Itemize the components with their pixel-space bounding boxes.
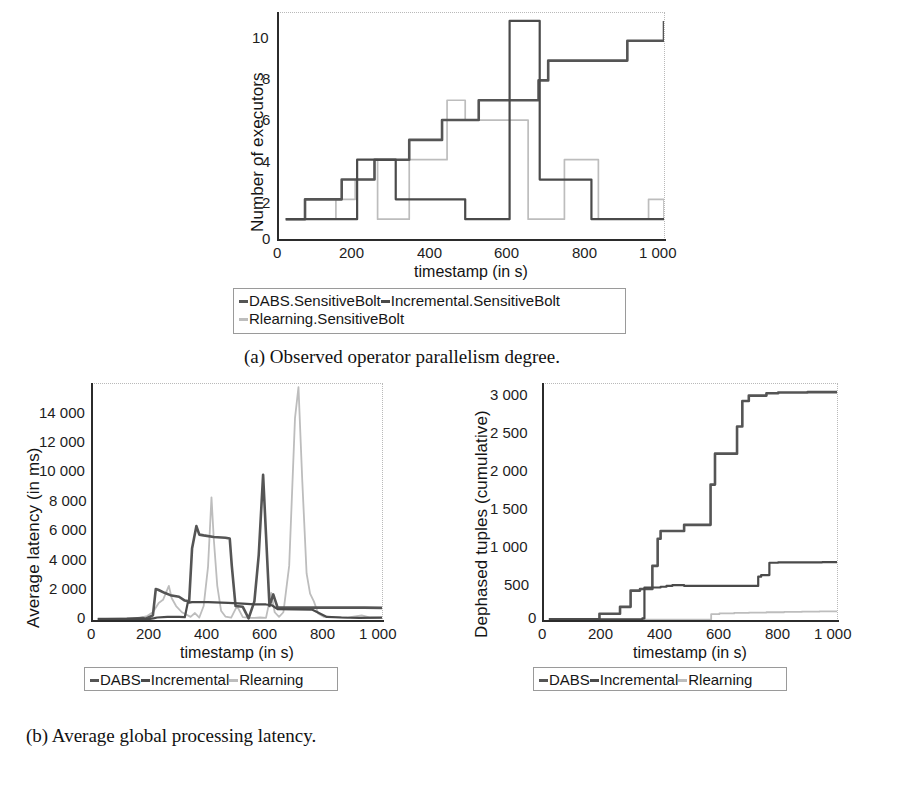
panel-a-legend-item-dabs[interactable]: DABS.SensitiveBolt xyxy=(239,292,381,310)
panel-b-legend-label-incremental: Incremental xyxy=(151,671,229,689)
panel-c-ytick-500: 500 xyxy=(504,577,529,592)
panel-b-x-axis xyxy=(91,620,384,622)
legend-swatch-icon xyxy=(239,318,248,321)
legend-swatch-icon xyxy=(590,679,599,682)
panel-c-y-axis xyxy=(542,383,544,622)
panel-b-legend-item-incremental[interactable]: Incremental xyxy=(141,671,229,689)
legend-swatch-icon xyxy=(239,300,248,303)
panel-b-legend-label-rlearning: Rlearning xyxy=(239,671,303,689)
panel-b-xtick-800: 800 xyxy=(310,626,335,641)
panel-a-ytick-8: 8 xyxy=(262,71,270,86)
panel-a-xtick-400: 400 xyxy=(417,245,442,260)
panel-b-plot-svg xyxy=(92,384,382,620)
legend-swatch-icon xyxy=(539,679,548,682)
panel-a-legend-item-rlearning[interactable]: Rlearning.SensitiveBolt xyxy=(239,310,404,328)
panel-c-ytick-1000: 1 000 xyxy=(490,539,528,554)
panel-a-plot-area xyxy=(277,12,665,240)
legend-swatch-icon xyxy=(229,679,238,682)
panel-c-legend-label-incremental: Incremental xyxy=(600,671,678,689)
panel-c-y-axis-label: Dephased tuples (cumulative) xyxy=(472,410,492,638)
panel-c-ytick-1500: 1 500 xyxy=(490,501,528,516)
panel-c-x-axis xyxy=(542,620,839,622)
panel-a-legend-label-incremental: Incremental.SensitiveBolt xyxy=(391,292,560,310)
panel-a-legend-item-incremental[interactable]: Incremental.SensitiveBolt xyxy=(381,292,560,310)
panel-b-xtick-0: 0 xyxy=(87,626,95,641)
panel-c-plot-area xyxy=(542,383,838,621)
panel-b-xtick-400: 400 xyxy=(194,626,219,641)
panel-c-xtick-0: 0 xyxy=(538,626,546,641)
panel-b-legend[interactable]: DABS Incremental Rlearning xyxy=(84,667,338,691)
panel-c-ytick-3000: 3 000 xyxy=(490,387,528,402)
panel-c-legend-item-rlearning[interactable]: Rlearning xyxy=(678,671,752,689)
series-incremental xyxy=(549,562,837,619)
panel-c: Dephased tuples (cumulative) 3 000 2 500… xyxy=(460,378,918,778)
panel-b-legend-label-dabs: DABS xyxy=(100,671,141,689)
panel-b-ytick-6000: 6 000 xyxy=(49,522,87,537)
panel-a: Number of executors 10 8 6 4 2 0 0 200 4… xyxy=(0,0,918,372)
panel-c-ytick-0: 0 xyxy=(528,610,536,625)
panel-b-plot-area xyxy=(91,383,383,621)
panel-b-xtick-1000: 1 000 xyxy=(359,626,397,641)
panel-a-xtick-200: 200 xyxy=(339,245,364,260)
panel-a-plot-svg xyxy=(278,13,664,239)
panel-b-xtick-200: 200 xyxy=(136,626,161,641)
legend-swatch-icon xyxy=(381,300,390,303)
panel-c-x-axis-label: timestamp (in s) xyxy=(542,644,838,662)
legend-swatch-icon xyxy=(90,679,99,682)
panel-b-ytick-0: 0 xyxy=(77,610,85,625)
panel-c-legend-label-dabs: DABS xyxy=(549,671,590,689)
panel-b-ytick-4000: 4 000 xyxy=(49,552,87,567)
panel-b-ytick-14000: 14 000 xyxy=(39,405,85,420)
series-rlearning xyxy=(98,387,382,619)
panel-c-xtick-600: 600 xyxy=(706,626,731,641)
panel-b-ytick-8000: 8 000 xyxy=(49,493,87,508)
panel-c-plot-svg xyxy=(543,384,837,620)
panel-a-x-axis-label: timestamp (in s) xyxy=(277,263,665,281)
panel-c-legend-item-dabs[interactable]: DABS xyxy=(539,671,590,689)
panel-b-ytick-2000: 2 000 xyxy=(49,581,87,596)
panel-c-xtick-800: 800 xyxy=(765,626,790,641)
legend-swatch-icon xyxy=(141,679,150,682)
panel-b-legend-item-rlearning[interactable]: Rlearning xyxy=(229,671,303,689)
panel-a-ytick-4: 4 xyxy=(262,154,270,169)
panel-c-ytick-2500: 2 500 xyxy=(490,425,528,440)
panel-a-ytick-2: 2 xyxy=(262,195,270,210)
panel-b-ytick-12000: 12 000 xyxy=(39,434,85,449)
series-dabs-sensitivebolt xyxy=(286,21,664,219)
series-rlearning-sensitivebolt xyxy=(286,100,664,219)
panel-c-legend-item-incremental[interactable]: Incremental xyxy=(590,671,678,689)
panel-a-ytick-10: 10 xyxy=(252,30,269,45)
panel-c-ytick-2000: 2 000 xyxy=(490,463,528,478)
panel-a-xtick-0: 0 xyxy=(273,245,281,260)
panel-a-x-axis xyxy=(277,239,666,241)
panel-a-ytick-0: 0 xyxy=(262,231,270,246)
panel-a-xtick-1000: 1 000 xyxy=(639,245,677,260)
panel-a-legend-row-2: Rlearning.SensitiveBolt xyxy=(239,310,620,328)
panel-c-legend[interactable]: DABS Incremental Rlearning xyxy=(533,667,787,691)
panel-b-legend-item-dabs[interactable]: DABS xyxy=(90,671,141,689)
panel-b-x-axis-label: timestamp (in s) xyxy=(91,644,383,662)
panel-a-legend-row-1: DABS.SensitiveBolt Incremental.Sensitive… xyxy=(239,292,620,310)
panel-a-xtick-600: 600 xyxy=(494,245,519,260)
panel-a-legend-label-rlearning: Rlearning.SensitiveBolt xyxy=(249,310,404,328)
series-dabs xyxy=(98,475,382,619)
panel-c-legend-row: DABS Incremental Rlearning xyxy=(539,671,781,689)
panel-a-legend[interactable]: DABS.SensitiveBolt Incremental.Sensitive… xyxy=(233,288,626,334)
panel-c-xtick-1000: 1 000 xyxy=(814,626,852,641)
panel-b-y-axis xyxy=(91,383,93,622)
panel-a-y-axis xyxy=(277,12,279,241)
panel-c-xtick-200: 200 xyxy=(588,626,613,641)
panel-a-caption: (a) Observed operator parallelism degree… xyxy=(244,346,560,368)
panel-c-xtick-400: 400 xyxy=(647,626,672,641)
panel-a-ytick-6: 6 xyxy=(262,112,270,127)
panel-b-legend-row: DABS Incremental Rlearning xyxy=(90,671,332,689)
panel-a-legend-label-dabs: DABS.SensitiveBolt xyxy=(249,292,381,310)
panel-b-caption: (b) Average global processing latency. xyxy=(26,725,316,747)
panel-c-legend-label-rlearning: Rlearning xyxy=(688,671,752,689)
panel-b-ytick-10000: 10 000 xyxy=(39,463,85,478)
panel-b-xtick-600: 600 xyxy=(252,626,277,641)
legend-swatch-icon xyxy=(678,679,687,682)
panel-a-xtick-800: 800 xyxy=(572,245,597,260)
panel-b: Average latency (in ms) 14 000 12 000 10… xyxy=(0,378,460,778)
